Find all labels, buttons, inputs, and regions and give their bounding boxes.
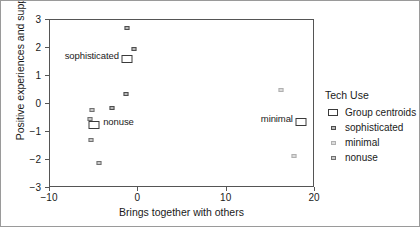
x-tick-label: 10 (220, 192, 231, 203)
data-point-centroid (295, 118, 306, 126)
centroid-label: minimal (261, 113, 293, 124)
legend-marker-icon (325, 109, 341, 116)
legend-entry-centroid[interactable]: Group centroids (325, 105, 419, 120)
legend-entry-label: Group centroids (345, 107, 416, 118)
y-tick-label: 1 (19, 70, 41, 81)
y-tick-label: −3 (19, 182, 41, 193)
legend-title: Tech Use (325, 89, 419, 101)
legend-entry-label: nonuse (345, 152, 378, 163)
legend-marker-icon (325, 126, 341, 130)
legend-entry-minimal[interactable]: minimal (325, 135, 419, 150)
y-tick-label: −1 (19, 126, 41, 137)
data-point-sophisticated (124, 26, 129, 30)
legend-marker-icon (325, 156, 341, 160)
data-point-nonuse (88, 138, 93, 142)
legend-entries: Group centroidssophisticatedminimalnonus… (325, 105, 419, 165)
x-axis-label: Brings together with others (49, 206, 314, 218)
data-point-sophisticated (109, 106, 114, 110)
legend-entry-label: minimal (345, 137, 379, 148)
y-tick-label: −2 (19, 154, 41, 165)
x-tick (49, 187, 50, 191)
centroid-label: sophisticated (65, 50, 119, 61)
x-tick-label: 0 (135, 192, 141, 203)
data-point-sophisticated (131, 47, 136, 51)
data-point-sophisticated (123, 92, 128, 96)
data-point-centroid (121, 55, 132, 63)
x-tick (137, 187, 138, 191)
data-point-nonuse (89, 108, 94, 112)
x-tick (226, 187, 227, 191)
data-point-minimal (279, 88, 284, 92)
y-tick-label: 0 (19, 98, 41, 109)
x-tick-label: 20 (308, 192, 319, 203)
legend-entry-sophisticated[interactable]: sophisticated (325, 120, 419, 135)
plot-area: sophisticatednonuseminimal (49, 19, 314, 187)
legend-marker-icon (325, 141, 341, 145)
data-point-minimal (291, 154, 296, 158)
data-point-centroid (89, 121, 100, 129)
x-tick-label: −10 (41, 192, 58, 203)
data-points-layer: sophisticatednonuseminimal (50, 20, 313, 186)
legend: Tech Use Group centroidssophisticatedmin… (325, 89, 419, 165)
x-tick (314, 187, 315, 191)
y-tick-label: 2 (19, 42, 41, 53)
data-point-nonuse (96, 161, 101, 165)
centroid-label: nonuse (103, 116, 134, 127)
y-tick-label: 3 (19, 14, 41, 25)
legend-entry-label: sophisticated (345, 122, 403, 133)
scatter-plot-figure: Positive experiences and support 3210−1−… (0, 0, 420, 227)
legend-entry-nonuse[interactable]: nonuse (325, 150, 419, 165)
